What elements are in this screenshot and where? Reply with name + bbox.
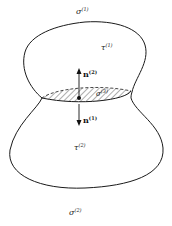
body-diagram: σ(1) τ(1) n(2) σ(3) n(1) τ(2) σ(2) [0, 0, 172, 226]
label-n1: n(1) [83, 115, 97, 125]
arrowhead-down-icon [77, 120, 82, 126]
lower-body-outline [10, 98, 163, 188]
label-tau1: τ(1) [101, 42, 113, 52]
label-tau2: τ(2) [74, 142, 86, 152]
upper-body-outline [24, 22, 146, 98]
arrowhead-up-icon [77, 68, 82, 74]
interface-surface [42, 87, 131, 101]
label-sigma1: σ(1) [76, 6, 89, 16]
label-n2: n(2) [83, 69, 97, 79]
label-sigma2: σ(2) [69, 207, 82, 217]
